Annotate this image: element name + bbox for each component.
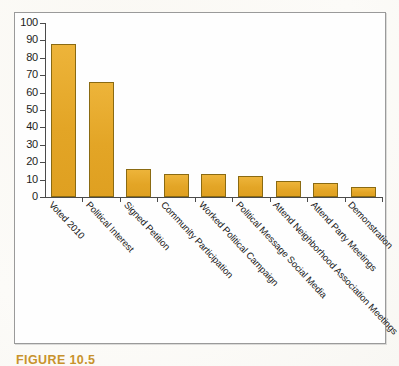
page-background: 1009080706050403020100 Voted 2010Politic… bbox=[0, 0, 399, 366]
y-axis-line bbox=[45, 23, 46, 197]
y-axis-tick-label: 10 bbox=[26, 173, 38, 185]
bar bbox=[313, 183, 338, 197]
bar bbox=[126, 169, 151, 197]
bar bbox=[238, 176, 263, 197]
bar bbox=[51, 44, 76, 197]
x-axis-label: Community Participation bbox=[159, 199, 236, 280]
bar bbox=[276, 181, 301, 197]
y-axis-tick-mark bbox=[40, 127, 45, 128]
y-axis-tick-mark bbox=[40, 197, 45, 198]
y-axis-tick-mark bbox=[40, 58, 45, 59]
x-axis-labels: Voted 2010Political InterestSigned Petit… bbox=[45, 199, 390, 339]
bar bbox=[164, 174, 189, 197]
x-axis-line bbox=[45, 197, 382, 198]
figure-frame: 1009080706050403020100 Voted 2010Politic… bbox=[14, 12, 386, 344]
bar bbox=[89, 82, 114, 197]
x-axis-label: Attend Party Meetings bbox=[309, 199, 379, 273]
bar bbox=[201, 174, 226, 197]
y-axis-tick-label: 30 bbox=[26, 138, 38, 150]
y-axis-tick-label: 20 bbox=[26, 155, 38, 167]
y-axis-tick-label: 40 bbox=[26, 120, 38, 132]
y-axis-tick-mark bbox=[40, 162, 45, 163]
y-axis-tick-label: 50 bbox=[26, 103, 38, 115]
y-axis-tick-label: 90 bbox=[26, 33, 38, 45]
y-axis-tick-mark bbox=[40, 145, 45, 146]
x-axis-label: Voted 2010 bbox=[47, 199, 87, 241]
bar-chart-plot-area: 1009080706050403020100 bbox=[45, 23, 385, 197]
y-axis-tick-label: 70 bbox=[26, 68, 38, 80]
bar bbox=[351, 187, 376, 197]
y-axis-tick-mark bbox=[40, 40, 45, 41]
y-axis-tick-mark bbox=[40, 180, 45, 181]
y-axis-tick-mark bbox=[40, 23, 45, 24]
y-axis-tick-label: 80 bbox=[26, 51, 38, 63]
y-axis-tick-mark bbox=[40, 93, 45, 94]
y-axis-tick-mark bbox=[40, 75, 45, 76]
y-axis-tick-label: 60 bbox=[26, 86, 38, 98]
y-axis-tick-mark bbox=[40, 110, 45, 111]
y-axis-tick-label: 100 bbox=[20, 16, 38, 28]
y-axis-tick-label: 0 bbox=[32, 190, 38, 202]
figure-caption: FIGURE 10.5 bbox=[16, 353, 95, 366]
